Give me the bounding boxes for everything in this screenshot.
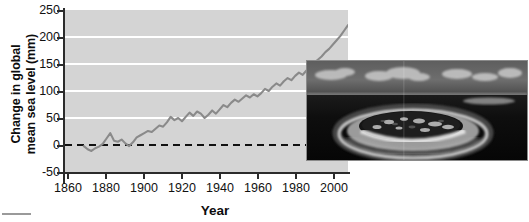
y-tick-mark [57, 37, 64, 39]
x-tick-mark [257, 172, 259, 179]
plot-area [65, 10, 348, 172]
chart-canvas [65, 10, 348, 172]
y-tick-label: -50 [26, 165, 60, 179]
x-tick-mark [67, 172, 69, 179]
x-tick-label: 2000 [304, 181, 364, 195]
x-tick-mark [295, 172, 297, 179]
x-tick-mark [333, 172, 335, 179]
y-axis-line [63, 8, 65, 184]
y-tick-mark [57, 10, 64, 12]
y-tick-label: 200 [26, 30, 60, 44]
y-tick-mark [57, 64, 64, 66]
y-tick-mark [57, 145, 64, 147]
y-tick-mark [57, 118, 64, 120]
gridlines [65, 37, 348, 118]
x-tick-mark [143, 172, 145, 179]
scan-seam [403, 61, 405, 160]
y-axis-label-line-1: Change in global [9, 9, 24, 179]
x-axis-label: Year [0, 203, 430, 218]
y-tick-mark [57, 172, 64, 174]
sea-level-figure: Change in global mean sea level (mm) 250… [0, 0, 529, 222]
y-tick-label: 50 [26, 111, 60, 125]
x-tick-mark [105, 172, 107, 179]
scan-artifact-mark [2, 213, 31, 215]
y-tick-label: 100 [26, 84, 60, 98]
y-tick-mark [57, 91, 64, 93]
x-tick-mark [219, 172, 221, 179]
atoll-photo-canvas [307, 61, 527, 160]
aerial-photo-low-lying-coral-atoll [307, 61, 527, 160]
y-tick-label: 150 [26, 57, 60, 71]
y-tick-label: 250 [26, 3, 60, 17]
distant-island [463, 98, 515, 105]
x-tick-mark [181, 172, 183, 179]
y-tick-label: 0 [26, 138, 60, 152]
